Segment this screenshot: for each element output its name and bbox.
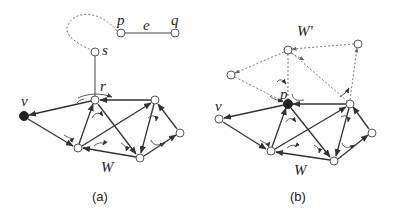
node-p — [117, 29, 125, 37]
dotted-path-p-s — [67, 14, 117, 50]
label-e: e — [143, 17, 150, 33]
graph-figure: p q e s r v W (a) — [0, 0, 396, 210]
node-w2 — [354, 40, 362, 48]
node-q — [171, 29, 179, 37]
label-s: s — [102, 42, 108, 58]
graph-W-edges — [28, 100, 177, 157]
label-r: r — [100, 78, 106, 94]
caption-a: (a) — [92, 189, 108, 204]
node-r — [91, 96, 99, 104]
panel-a: p q e s r v W (a) — [20, 12, 185, 204]
label-p-b: p — [279, 86, 288, 102]
node-b3 — [330, 157, 338, 165]
graph-W-edges-b — [223, 104, 369, 160]
node-b2 — [267, 147, 275, 155]
label-W: W — [101, 159, 115, 175]
graph-Wprime-edges — [235, 44, 357, 102]
panel-b: W' p v W (b) — [215, 23, 376, 204]
label-v: v — [21, 93, 28, 109]
node-a1 — [151, 96, 159, 104]
label-p: p — [116, 12, 125, 28]
node-b1 — [346, 100, 354, 108]
node-v-b — [215, 115, 223, 123]
label-q: q — [171, 12, 179, 28]
node-b4 — [368, 129, 376, 137]
label-Wprime: W' — [297, 23, 313, 39]
node-a3 — [136, 154, 144, 162]
caption-b: (b) — [290, 189, 306, 204]
node-s — [91, 48, 99, 56]
node-w3 — [227, 71, 235, 79]
node-a2 — [74, 144, 82, 152]
label-W-b: W — [294, 162, 308, 178]
node-w1 — [284, 46, 292, 54]
node-a4 — [176, 129, 184, 137]
node-v — [20, 112, 29, 121]
label-v-b: v — [215, 98, 222, 114]
